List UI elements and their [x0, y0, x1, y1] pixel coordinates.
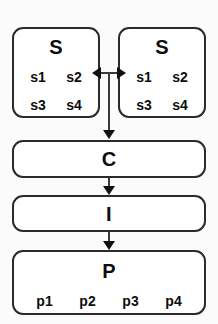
node-s-left-row-1: s1 s2 — [14, 70, 98, 84]
edge-c-to-i-arrowhead-icon — [103, 186, 115, 195]
edge-s-right-arrowhead-icon — [117, 67, 126, 79]
node-p-title: P — [102, 261, 116, 281]
node-i-title: I — [106, 204, 112, 224]
node-s-right[interactable]: S s1 s2 s3 s4 — [118, 27, 206, 118]
node-s-left-title: S — [49, 37, 63, 57]
node-p[interactable]: P p1 p2 p3 p4 — [12, 250, 206, 315]
edge-junction-to-c-arrowhead-icon — [103, 130, 115, 139]
node-s-left-leaf-s3: s3 — [20, 98, 56, 112]
node-p-leaf-p1: p1 — [23, 294, 66, 308]
node-s-right-leaf-s2: s2 — [162, 70, 198, 84]
node-s-left-leaf-s4: s4 — [56, 98, 92, 112]
node-c[interactable]: C — [12, 140, 206, 178]
node-s-right-row-2: s3 s4 — [120, 98, 204, 112]
node-p-leaf-p2: p2 — [66, 294, 109, 308]
node-s-left-row-2: s3 s4 — [14, 98, 98, 112]
node-s-left-leaf-s2: s2 — [56, 70, 92, 84]
node-s-right-leaf-s3: s3 — [126, 98, 162, 112]
edge-junction-to-c-line — [108, 72, 110, 132]
node-p-row-1: p1 p2 p3 p4 — [14, 294, 204, 308]
node-p-leaf-p3: p3 — [109, 294, 152, 308]
node-i[interactable]: I — [12, 195, 206, 232]
edge-s-left-arrowhead-icon — [92, 67, 101, 79]
flowchart-diagram: S s1 s2 s3 s4 S s1 s2 s3 s4 C I — [0, 0, 218, 324]
node-s-right-title: S — [155, 37, 169, 57]
node-s-right-leaf-s4: s4 — [162, 98, 198, 112]
node-s-left-leaf-s1: s1 — [20, 70, 56, 84]
edge-i-to-p-arrowhead-icon — [103, 241, 115, 250]
node-s-right-row-1: s1 s2 — [120, 70, 204, 84]
node-s-right-leaf-s1: s1 — [126, 70, 162, 84]
node-p-leaf-p4: p4 — [152, 294, 195, 308]
node-c-title: C — [102, 149, 117, 169]
node-s-left[interactable]: S s1 s2 s3 s4 — [12, 27, 100, 118]
